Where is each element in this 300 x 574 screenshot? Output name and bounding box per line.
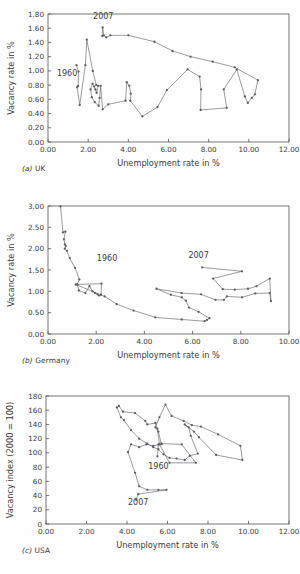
data-point bbox=[166, 89, 168, 91]
data-point bbox=[184, 423, 186, 425]
data-point bbox=[134, 412, 136, 414]
data-point bbox=[191, 424, 193, 426]
data-point bbox=[84, 64, 86, 66]
data-point bbox=[124, 100, 126, 102]
data-point bbox=[234, 66, 236, 68]
caption-germany-letter: (b) bbox=[22, 356, 33, 365]
annotation-label: 1960 bbox=[97, 254, 117, 263]
data-point bbox=[197, 452, 199, 454]
data-point bbox=[101, 26, 103, 28]
data-point bbox=[244, 95, 246, 97]
data-point bbox=[251, 97, 253, 99]
y-tick-label: 1.00 bbox=[28, 66, 44, 75]
plot-frame bbox=[48, 14, 289, 142]
data-point bbox=[130, 443, 132, 445]
data-point bbox=[217, 433, 219, 435]
y-tick-label: 60 bbox=[33, 477, 43, 486]
data-point bbox=[181, 296, 183, 298]
data-point bbox=[198, 436, 200, 438]
caption-usa: (c) USA bbox=[22, 546, 50, 555]
data-point bbox=[109, 34, 111, 36]
y-tick-label: 120 bbox=[28, 434, 42, 443]
x-tick-label: 10.00 bbox=[238, 527, 259, 536]
data-point bbox=[200, 88, 202, 90]
data-point bbox=[162, 453, 164, 455]
caption-usa-letter: (c) bbox=[22, 546, 32, 555]
data-point bbox=[94, 88, 96, 90]
data-line bbox=[117, 405, 243, 500]
data-point bbox=[257, 79, 259, 81]
y-tick-label: 0 bbox=[37, 520, 42, 529]
x-tick-label: 8.00 bbox=[201, 145, 217, 154]
data-point bbox=[241, 459, 243, 461]
data-point bbox=[155, 288, 157, 290]
data-point bbox=[189, 455, 191, 457]
data-point bbox=[170, 415, 172, 417]
x-tick-label: 12.00 bbox=[279, 527, 300, 536]
data-point bbox=[204, 320, 206, 322]
data-point bbox=[254, 292, 256, 294]
data-point bbox=[189, 56, 191, 58]
annotation-label: 2007 bbox=[128, 498, 148, 507]
y-tick-label: 0.00 bbox=[28, 330, 44, 339]
data-point bbox=[236, 68, 238, 70]
data-point bbox=[212, 277, 214, 279]
data-point bbox=[59, 205, 61, 207]
data-point bbox=[88, 285, 90, 287]
data-point bbox=[200, 425, 202, 427]
caption-uk: (a) UK bbox=[22, 164, 46, 173]
data-point bbox=[181, 318, 183, 320]
data-point bbox=[171, 50, 173, 52]
data-point bbox=[97, 85, 99, 87]
data-point bbox=[77, 70, 79, 72]
x-tick-label: 2.00 bbox=[88, 337, 104, 346]
annotation-label: 1960 bbox=[57, 69, 77, 78]
x-axis-label: Unemployment rate in % bbox=[117, 350, 220, 360]
data-point bbox=[118, 405, 120, 407]
data-point bbox=[201, 266, 203, 268]
data-point bbox=[198, 75, 200, 77]
data-point bbox=[95, 84, 97, 86]
data-point bbox=[190, 435, 192, 437]
figure-page: 0.002.004.006.008.0010.0012.000.000.200.… bbox=[0, 0, 300, 574]
data-point bbox=[247, 288, 249, 290]
data-point bbox=[100, 283, 102, 285]
data-point bbox=[158, 443, 160, 445]
data-point bbox=[181, 292, 183, 294]
data-line bbox=[61, 206, 271, 321]
x-tick-label: 4.00 bbox=[120, 145, 136, 154]
data-point bbox=[137, 493, 139, 495]
data-point bbox=[95, 92, 97, 94]
data-point bbox=[208, 317, 210, 319]
x-axis-label: Unemployment rate in % bbox=[117, 158, 220, 168]
data-point bbox=[175, 457, 177, 459]
data-point bbox=[64, 230, 66, 232]
data-point bbox=[184, 459, 186, 461]
data-point bbox=[75, 64, 77, 66]
y-tick-label: 1.80 bbox=[28, 10, 44, 19]
data-point bbox=[157, 448, 159, 450]
data-point bbox=[63, 238, 65, 240]
data-point bbox=[153, 41, 155, 43]
data-point bbox=[127, 451, 129, 453]
data-point bbox=[91, 83, 93, 85]
y-axis-label: Vacancy rate in % bbox=[6, 41, 16, 115]
data-point bbox=[116, 406, 118, 408]
data-point bbox=[158, 416, 160, 418]
data-point bbox=[193, 430, 195, 432]
data-point bbox=[138, 438, 140, 440]
data-point bbox=[154, 422, 156, 424]
y-tick-label: 40 bbox=[33, 491, 43, 500]
data-point bbox=[122, 410, 124, 412]
data-point bbox=[152, 445, 154, 447]
caption-germany: (b) Germany bbox=[22, 356, 70, 365]
data-point bbox=[255, 285, 257, 287]
data-point bbox=[168, 462, 170, 464]
y-tick-label: 2.00 bbox=[28, 244, 44, 253]
y-tick-label: 1.60 bbox=[28, 24, 44, 33]
data-point bbox=[120, 416, 122, 418]
data-point bbox=[93, 85, 95, 87]
x-tick-label: 8.00 bbox=[233, 337, 249, 346]
data-point bbox=[64, 248, 66, 250]
y-tick-label: 0.20 bbox=[28, 123, 44, 132]
